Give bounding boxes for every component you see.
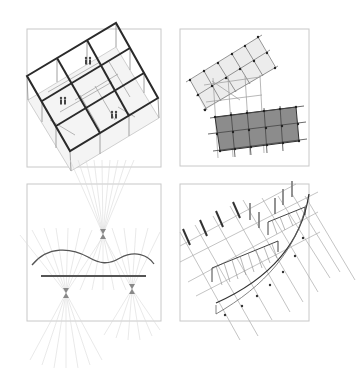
panel-bottom-left [20, 160, 161, 368]
panel-top-left [27, 23, 161, 171]
dark-grid-fill [215, 107, 299, 151]
panel-bottom-right [180, 181, 355, 340]
panel-top-right [180, 29, 309, 166]
sightline-fan-left [20, 228, 104, 368]
projection-lines [180, 184, 355, 340]
focal-points [63, 229, 135, 298]
diagram-canvas [0, 0, 360, 388]
sightline-fan-top [70, 160, 134, 290]
